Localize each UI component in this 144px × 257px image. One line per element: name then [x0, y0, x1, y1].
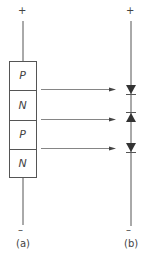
mapping-arrows	[41, 88, 116, 151]
panel-a-caption: (a)	[16, 238, 30, 249]
layer-label: N	[9, 99, 36, 112]
panel-a-minus-terminal: –	[18, 224, 23, 235]
panel-b-plus-terminal: +	[126, 5, 134, 16]
panel-a-plus-terminal: +	[18, 5, 26, 16]
panel-b-circuit	[126, 21, 136, 226]
diode-down-icon	[126, 85, 136, 94]
diode-down-icon	[126, 143, 136, 152]
panel-b-caption: (b)	[124, 238, 138, 249]
layer-label: P	[9, 128, 36, 141]
arrow-head-icon	[109, 147, 116, 151]
arrow-head-icon	[109, 88, 116, 92]
layer-label: P	[9, 69, 36, 82]
panel-a-device	[10, 21, 37, 225]
diode-up-icon	[126, 113, 136, 122]
arrow-head-icon	[109, 118, 116, 122]
layer-label: N	[9, 157, 36, 170]
panel-b-minus-terminal: –	[126, 224, 131, 235]
